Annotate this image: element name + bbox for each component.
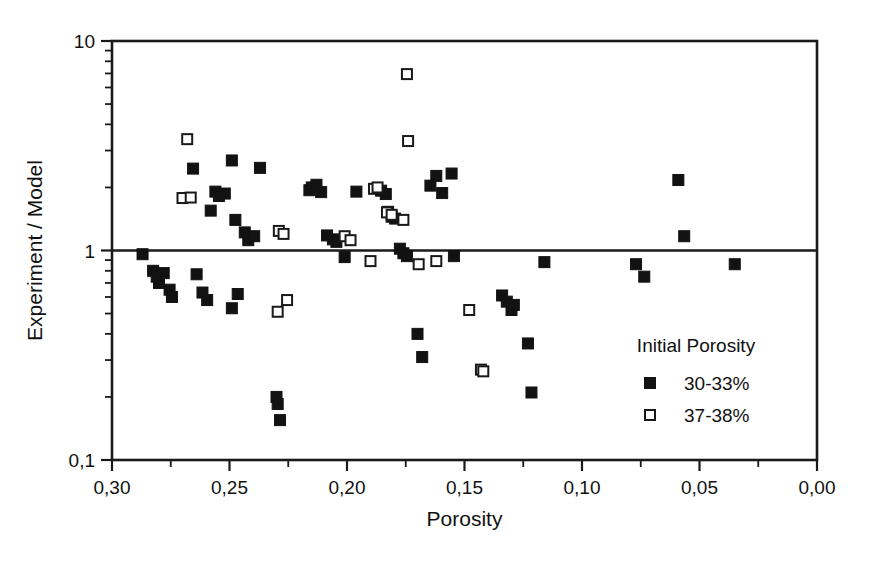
series-open [178,69,489,376]
data-point [219,188,230,199]
data-point [226,303,237,314]
x-axis-title: Porosity [427,507,503,530]
data-point [166,291,177,302]
y-tick-label: 10 [74,31,95,52]
data-point [387,210,397,220]
data-point [273,307,283,317]
data-point [403,136,413,146]
data-point [182,134,192,144]
x-tick-label: 0,05 [681,477,718,498]
data-point [232,288,243,299]
data-point [412,328,423,339]
legend-label: 30-33% [684,373,750,394]
data-point [186,193,196,203]
data-point [366,256,376,266]
x-tick-label: 0,15 [446,477,483,498]
data-point [316,187,327,198]
x-tick-label: 0,25 [211,477,248,498]
data-point [226,155,237,166]
data-point [205,205,216,216]
data-point [191,269,202,280]
legend-label: 37-38% [684,405,750,426]
data-point [417,352,428,363]
data-point [431,256,441,266]
data-point [508,299,519,310]
y-tick-label: 1 [84,241,95,262]
data-point [639,271,650,282]
data-point [339,252,350,263]
data-point [272,399,283,410]
y-axis-title: Experiment / Model [23,160,46,341]
x-tick-label: 0,00 [799,477,836,498]
data-point [202,295,213,306]
data-point [373,182,383,192]
plot-canvas: 0,300,250,200,150,100,050,001010,1Porosi… [0,0,873,567]
legend-title: Initial Porosity [637,335,756,356]
data-point [431,170,442,181]
data-point [158,268,169,279]
data-point [282,295,292,305]
data-point [137,249,148,260]
x-tick-label: 0,20 [329,477,366,498]
data-point [255,162,266,173]
data-point [539,257,550,268]
data-point [275,415,286,426]
data-point [249,231,260,242]
x-tick-label: 0,30 [94,477,131,498]
data-point [351,186,362,197]
scatter-plot-figure: 0,300,250,200,150,100,050,001010,1Porosi… [0,0,873,567]
y-tick-label: 0,1 [69,450,95,471]
data-point [414,259,424,269]
data-point [448,251,459,262]
data-point [464,305,474,315]
data-point [401,251,412,262]
data-point [673,175,684,186]
data-point [478,366,488,376]
data-point [230,214,241,225]
data-point [402,69,412,79]
x-tick-label: 0,10 [564,477,601,498]
data-point [437,188,448,199]
data-point [446,168,457,179]
data-point [729,259,740,270]
data-point [279,229,289,239]
data-point [188,163,199,174]
data-point [346,235,356,245]
legend-marker-filled [645,378,656,389]
data-point [398,215,408,225]
data-point [679,231,690,242]
data-point [631,259,642,270]
data-point [522,338,533,349]
data-point [526,387,537,398]
legend-marker-open [645,410,655,420]
